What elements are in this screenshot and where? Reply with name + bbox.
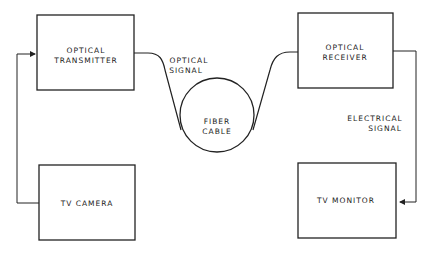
electrical-signal-annotation: ELECTRICAL SIGNAL — [347, 114, 402, 133]
fiber-label-line1: FIBER — [204, 117, 231, 126]
fiber-right-path — [253, 52, 298, 130]
optical-signal-annotation: OPTICAL SIGNAL — [169, 56, 208, 75]
receiver-label-line2: RECEIVER — [322, 53, 367, 62]
electrical-signal-line2: SIGNAL — [368, 124, 402, 133]
transmitter-label-line1: OPTICAL — [67, 46, 106, 55]
optical-signal-line1: OPTICAL — [170, 56, 209, 65]
monitor-label: TV MONITOR — [316, 196, 375, 205]
optical-receiver-block: OPTICAL RECEIVER — [298, 13, 393, 88]
tv-camera-block: TV CAMERA — [39, 165, 135, 240]
electrical-signal-line1: ELECTRICAL — [347, 114, 402, 123]
optical-signal-line2: SIGNAL — [169, 66, 203, 75]
transmitter-label-line2: TRANSMITTER — [53, 56, 118, 65]
fiber-cable-coil: FIBER CABLE — [180, 78, 254, 152]
fiber-label-line2: CABLE — [202, 127, 231, 136]
camera-label: TV CAMERA — [60, 199, 114, 208]
receiver-label-line1: OPTICAL — [326, 43, 365, 52]
fiber-optic-tv-link-diagram: OPTICAL TRANSMITTER OPTICAL RECEIVER TV … — [0, 0, 431, 254]
camera-to-transmitter-connector — [17, 54, 39, 203]
optical-transmitter-block: OPTICAL TRANSMITTER — [37, 15, 134, 90]
tv-monitor-block: TV MONITOR — [298, 163, 396, 238]
